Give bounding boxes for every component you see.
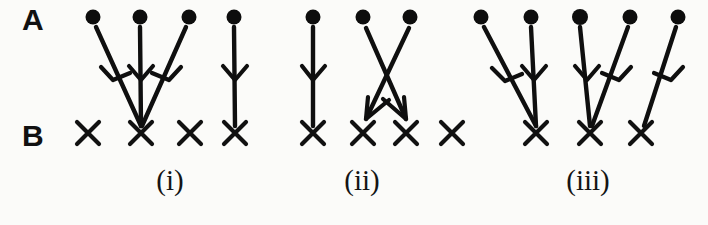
group-i: (i) (77, 10, 247, 198)
group-iii-a-nodes (474, 9, 686, 25)
node-dot (671, 10, 686, 25)
node-dot (86, 10, 101, 25)
node-x (441, 122, 463, 144)
group-ii-edges (302, 27, 409, 126)
group-ii-a-nodes (306, 10, 418, 25)
group-ii-b-nodes (302, 122, 463, 144)
node-dot (306, 10, 321, 25)
node-x (630, 122, 652, 144)
group-i-edges (96, 27, 247, 126)
node-dot (623, 10, 638, 25)
node-dot (182, 10, 197, 25)
diagram-canvas: A B (0, 0, 708, 225)
row-label-b: B (22, 119, 44, 152)
node-x (352, 122, 374, 144)
group-iii: (iii) (474, 9, 686, 197)
caption-i: (i) (156, 164, 183, 197)
edge-arrow (142, 27, 186, 126)
edge-arrow (223, 27, 247, 126)
node-x (77, 122, 99, 144)
edge-arrow (644, 27, 683, 126)
node-x (395, 122, 417, 144)
caption-iii: (iii) (566, 164, 610, 197)
node-dot (356, 10, 371, 25)
node-dot (133, 10, 148, 25)
node-dot (524, 10, 539, 25)
node-dot (572, 9, 588, 25)
edge-arrow (302, 27, 325, 126)
group-i-a-nodes (86, 10, 242, 25)
node-x (179, 122, 201, 144)
mapping-diagram-figure: A B (0, 0, 708, 225)
group-iii-edges (484, 27, 683, 126)
edge-arrow (592, 27, 631, 126)
edge-arrow (522, 27, 546, 126)
group-i-b-nodes (77, 122, 246, 144)
group-ii: (ii) (302, 10, 463, 198)
row-labels: A B (22, 3, 44, 152)
row-label-a: A (22, 3, 44, 36)
edge-arrow (96, 27, 141, 126)
node-dot (227, 10, 242, 25)
caption-ii: (ii) (344, 164, 379, 197)
node-dot (474, 10, 489, 25)
node-dot (403, 10, 418, 25)
edge-arrow (484, 27, 536, 126)
